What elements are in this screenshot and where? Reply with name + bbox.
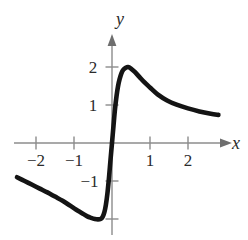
x-tick-label-pos1: 1: [142, 152, 158, 169]
y-axis-label: y: [116, 10, 124, 28]
x-tick-label-neg2: −2: [26, 152, 46, 169]
x-axis-arrowhead: [220, 139, 232, 148]
x-tick-label-neg1: −1: [64, 152, 84, 169]
x-axis-label: x: [232, 134, 240, 152]
y-axis-arrowhead: [108, 34, 117, 46]
y-tick-label-pos1: 1: [85, 97, 101, 114]
graph-figure: −2 −1 1 2 2 1 −1 x y: [0, 0, 248, 240]
y-tick-label-pos2: 2: [85, 59, 101, 76]
y-tick-label-neg1: −1: [78, 173, 101, 190]
plot-canvas: [0, 0, 248, 240]
x-tick-label-pos2: 2: [180, 152, 196, 169]
